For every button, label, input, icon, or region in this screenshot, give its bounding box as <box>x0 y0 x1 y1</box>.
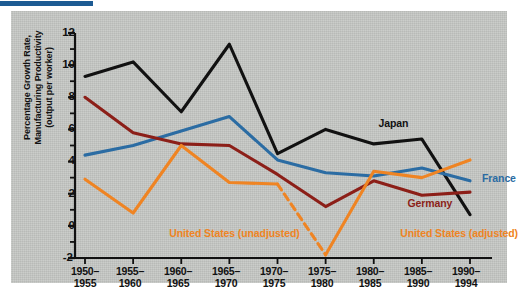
series-label-united-states-unadjusted: United States (unadjusted) <box>169 227 299 239</box>
series-label-japan: Japan <box>379 117 409 129</box>
series-label-united-states-adjusted: United States (adjusted) <box>400 227 518 239</box>
plot-panel: Percentage Growth Rate, Manufacturing Pr… <box>11 11 507 283</box>
series-label-france: France <box>482 172 516 184</box>
series-lines-group <box>85 44 470 255</box>
chart-plot-area <box>11 11 507 283</box>
series-label-germany: Germany <box>407 197 452 209</box>
